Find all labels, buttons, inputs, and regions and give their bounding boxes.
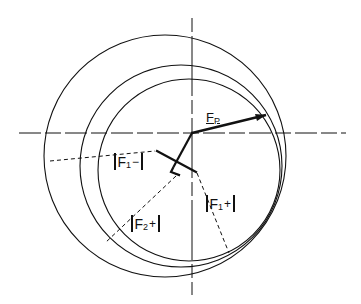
vector-fp [192,114,266,133]
abs-bar-right [233,195,235,212]
label-symbol: F [210,196,219,212]
label-sign: + [224,197,231,211]
dashed-f1-plus [197,173,229,253]
abs-bar-left [131,215,133,232]
harker-diagram: FP F1− F2+ F1+ [0,0,361,304]
label-symbol: F [135,216,144,232]
label-subscript: 2 [143,222,148,232]
axes [19,18,346,295]
perpendicular-bar [157,151,196,172]
abs-bar-left [114,153,116,170]
vector-fp-shaft [192,115,266,133]
abs-bar-right [141,153,143,170]
label-symbol: F [118,154,127,170]
label-sign: − [132,155,139,169]
label-f1-plus: F1+ [204,195,237,212]
label-fp: FP [206,110,220,126]
dashed-f2-plus [105,176,176,243]
abs-bar-left [206,195,208,212]
abs-bar-right [158,215,160,232]
label-f1-minus: F1− [112,153,145,170]
label-subscript: 1 [218,202,223,212]
diagram-canvas [0,0,361,304]
label-f2-plus: F2+ [129,215,162,232]
construction-lines [157,133,196,175]
label-sign: + [149,217,156,231]
right-angle-hook [171,168,179,175]
label-fp-symbol: F [206,110,214,125]
label-fp-subscript: P [214,116,220,126]
label-subscript: 1 [126,160,131,170]
